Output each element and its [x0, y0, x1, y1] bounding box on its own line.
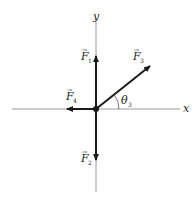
- svg-text:2: 2: [88, 159, 92, 166]
- svg-text:1: 1: [88, 57, 92, 64]
- svg-text:→: →: [82, 148, 87, 155]
- label-f2: F 2 →: [80, 148, 92, 166]
- svg-text:→: →: [134, 46, 139, 53]
- svg-text:4: 4: [73, 97, 77, 104]
- label-theta3: θ 3: [121, 94, 132, 108]
- svg-text:3: 3: [128, 101, 132, 108]
- y-axis-label: y: [92, 10, 100, 23]
- x-axis-label: x: [183, 102, 190, 115]
- svg-text:→: →: [82, 46, 87, 53]
- origin-point: [93, 106, 99, 112]
- label-f3: F 3 →: [132, 46, 144, 64]
- force-diagram: x y F 1 → F 2 → F 3 → F 4 → θ 3: [0, 0, 195, 204]
- svg-text:θ: θ: [121, 94, 128, 107]
- svg-text:3: 3: [140, 57, 144, 64]
- label-f1: F 1 →: [80, 46, 92, 64]
- label-f4: F 4 →: [65, 86, 77, 104]
- svg-text:→: →: [67, 86, 72, 93]
- angle-arc: [114, 95, 119, 110]
